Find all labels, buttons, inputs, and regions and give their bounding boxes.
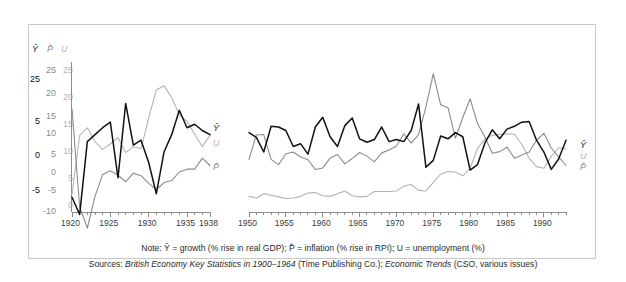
xtick-label-1920: 1920 xyxy=(61,219,80,228)
series-label-right-inflation: P̂ xyxy=(580,163,586,172)
series-label-right-unemployment: U xyxy=(580,152,587,161)
series-label-right-growth: Ŷ xyxy=(580,141,586,150)
series-line-growth xyxy=(249,104,566,170)
sources-mid: (Time Publishing Co.); xyxy=(296,259,385,269)
series-label-left-inflation: P̂ xyxy=(213,163,219,172)
sources-prefix: Sources: xyxy=(89,259,125,269)
sources-tail: (CSO, various issues) xyxy=(451,259,537,269)
sources-title-1: British Economy Key Statistics in 1900–1… xyxy=(125,259,296,269)
xtick-label-1970: 1970 xyxy=(385,219,404,228)
plot-canvas xyxy=(0,0,626,282)
series-line-growth xyxy=(72,103,210,214)
sources-line: Sources: British Economy Key Statistics … xyxy=(0,259,626,270)
xtick-label-1955: 1955 xyxy=(275,219,294,228)
right-panel-series xyxy=(249,74,566,199)
xtick-label-1930: 1930 xyxy=(138,219,157,228)
note-line: Note: Ŷ = growth (% rise in real GDP); P… xyxy=(0,243,626,254)
xtick-label-1925: 1925 xyxy=(99,219,118,228)
series-line-unemployment xyxy=(249,134,566,199)
sources-title-2: Economic Trends xyxy=(385,259,451,269)
series-line-inflation xyxy=(249,74,566,170)
series-label-left-growth: Ŷ xyxy=(213,124,219,133)
xtick-label-1960: 1960 xyxy=(312,219,331,228)
xtick-label-1938: 1938 xyxy=(199,219,218,228)
xtick-label-1985: 1985 xyxy=(496,219,515,228)
note-prefix: Note: xyxy=(141,243,164,253)
xtick-label-1950: 1950 xyxy=(238,219,257,228)
left-panel-series xyxy=(72,86,210,228)
series-label-left-unemployment: U xyxy=(213,139,220,148)
xtick-label-1975: 1975 xyxy=(422,219,441,228)
xtick-label-1935: 1935 xyxy=(176,219,195,228)
xtick-label-1980: 1980 xyxy=(459,219,478,228)
figure-root: Ŷ P̂ U 25 5 0 -5 25 20 15 10 5 0 -5 -10 … xyxy=(0,0,626,282)
note-text: Ŷ = growth (% rise in real GDP); P̂ = in… xyxy=(164,243,485,253)
xtick-label-1965: 1965 xyxy=(349,219,368,228)
xtick-label-1990: 1990 xyxy=(533,219,552,228)
